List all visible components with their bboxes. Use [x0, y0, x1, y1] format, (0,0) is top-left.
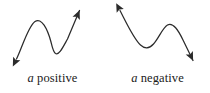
- curve-path-a-positive: [17, 11, 80, 60]
- curve-a-positive: [0, 0, 105, 70]
- caption-word-positive: positive: [37, 71, 77, 85]
- panel-a-positive: a positive: [0, 0, 105, 93]
- caption-a-negative: a negative: [105, 70, 210, 86]
- curve-path-a-negative: [120, 11, 193, 61]
- cubic-curves-figure: a positive a negative: [0, 0, 210, 93]
- panel-a-negative: a negative: [105, 0, 210, 93]
- curve-a-negative: [105, 0, 210, 70]
- caption-word-negative: negative: [141, 71, 184, 85]
- caption-a-positive: a positive: [0, 70, 105, 86]
